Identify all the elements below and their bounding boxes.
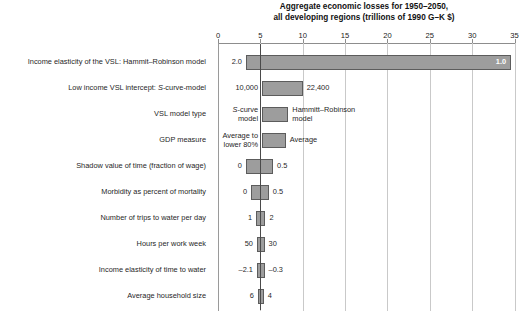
bar-low-value-label: 6	[134, 291, 254, 301]
chart-title-line-1: Aggregate economic losses for 1950–2050,	[236, 2, 492, 13]
bar-low-value-label: Average to lower 80%	[138, 131, 258, 150]
bar-high-value-label: 0.5	[273, 187, 403, 197]
tornado-bar	[262, 133, 286, 148]
bar-low-value-label: 50	[133, 239, 253, 249]
tornado-bar	[262, 81, 303, 96]
bar-low-value-label: S-curve model	[138, 105, 258, 124]
bar-low-value-label: 1	[132, 213, 252, 223]
gridline	[515, 43, 516, 311]
gridline	[472, 43, 473, 311]
bar-low-value-label: 0	[127, 187, 247, 197]
chart-title-line-2: all developing regions (trillions of 199…	[236, 13, 492, 24]
reference-line	[260, 44, 261, 310]
bar-high-value-label: 30	[269, 239, 399, 249]
bar-low-value-label: 0	[122, 161, 242, 171]
tornado-bar	[262, 107, 288, 122]
bar-high-value-label: –0.3	[269, 265, 399, 275]
bar-high-value-label: 1.0	[446, 57, 506, 67]
bar-high-value-label: 2	[269, 213, 399, 223]
chart-title: Aggregate economic losses for 1950–2050,…	[236, 2, 492, 23]
tornado-chart: Aggregate economic losses for 1950–2050,…	[0, 0, 532, 318]
bar-low-value-label: 2.0	[122, 57, 242, 67]
bar-high-value-label: 0.5	[277, 161, 407, 171]
bar-high-value-label: Average	[290, 135, 420, 145]
bar-high-value-label: 22,400	[307, 83, 437, 93]
x-axis-line	[218, 43, 515, 44]
bar-high-value-label: Hammitt–Robinson model	[292, 105, 422, 124]
bar-high-value-label: 4	[268, 291, 398, 301]
bar-low-value-label: 10,000	[138, 83, 258, 93]
bar-low-value-label: –2.1	[133, 265, 253, 275]
